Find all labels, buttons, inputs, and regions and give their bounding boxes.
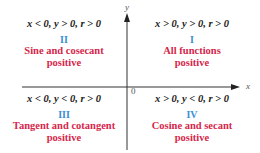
quadrant-iv-description-line2: positive [132,132,252,144]
quadrant-iv-description: Cosine and secant positive [132,120,252,144]
quadrant-iii-description-line1: Tangent and cotangent [0,120,128,132]
quadrant-i-description-line2: positive [132,57,252,69]
quadrant-iv: x > 0, y < 0, r > 0 IV Cosine and secant… [132,93,252,144]
quadrant-iii-description: Tangent and cotangent positive [0,120,128,144]
quadrant-iv-numeral: IV [132,109,252,120]
quadrant-i-description-line1: All functions [132,45,252,57]
x-axis-label: x [246,81,250,91]
quadrant-ii-description: Sine and cosecant positive [4,45,124,69]
quadrant-ii-description-line1: Sine and cosecant [4,45,124,57]
quadrant-ii-condition: x < 0, y > 0, r > 0 [4,18,124,29]
quadrant-iii-description-line2: positive [0,132,128,144]
quadrant-iv-condition: x > 0, y < 0, r > 0 [132,93,252,104]
quadrant-i-description: All functions positive [132,45,252,69]
quadrant-ii-numeral: II [4,34,124,45]
quadrant-iii-numeral: III [0,109,128,120]
y-axis-label: y [125,2,129,12]
quadrant-i-condition: x > 0, y > 0, r > 0 [132,18,252,29]
quadrant-iv-description-line1: Cosine and secant [132,120,252,132]
quadrant-i: x > 0, y > 0, r > 0 I All functions posi… [132,18,252,69]
quadrant-i-numeral: I [132,34,252,45]
quadrant-iii: x < 0, y < 0, r > 0 III Tangent and cota… [0,93,128,144]
quadrant-ii: x < 0, y > 0, r > 0 II Sine and cosecant… [4,18,124,69]
y-axis-arrow-icon [124,13,130,22]
quadrant-ii-description-line2: positive [4,57,124,69]
quadrant-iii-condition: x < 0, y < 0, r > 0 [0,93,128,104]
x-axis-arrow-icon [231,84,240,90]
